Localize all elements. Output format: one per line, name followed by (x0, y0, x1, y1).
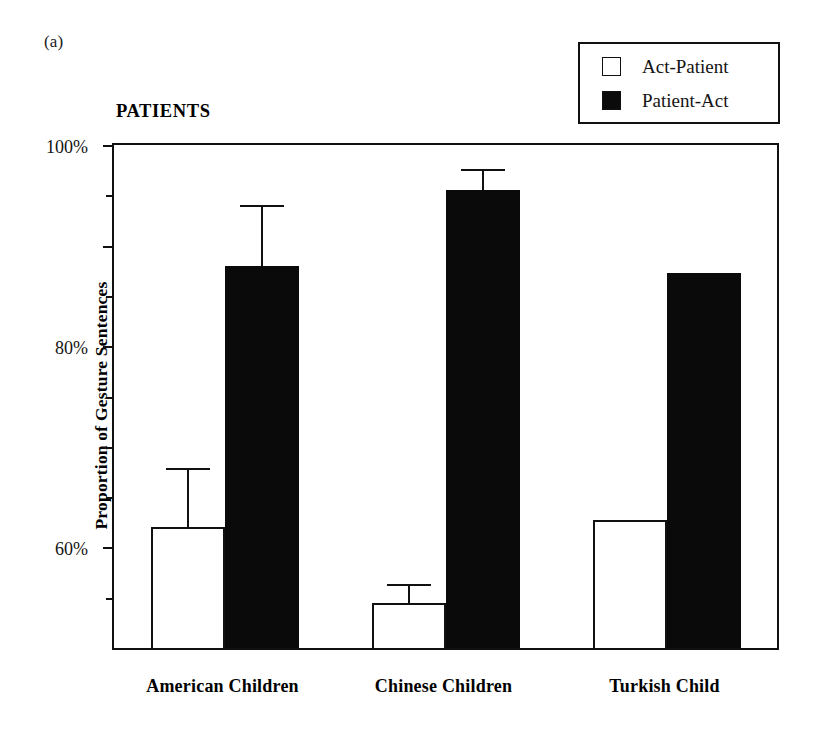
y-axis-tick-minor (106, 296, 114, 298)
bar-act-patient (151, 527, 225, 648)
y-axis-tick-major: 40% (103, 447, 114, 449)
x-axis-label: Chinese Children (334, 676, 554, 697)
legend-label-patient-act: Patient-Act (642, 91, 729, 110)
legend: Act-Patient Patient-Act (578, 42, 780, 124)
bar-patient-act (667, 273, 741, 648)
error-bar-stem (482, 169, 484, 191)
error-bar-cap (240, 205, 284, 207)
legend-item-act-patient: Act-Patient (580, 50, 778, 82)
legend-label-act-patient: Act-Patient (642, 57, 729, 76)
figure-panel: (a) PATIENTS Act-Patient Patient-Act Pro… (0, 0, 822, 739)
bar-patient-act (225, 266, 299, 648)
y-axis-tick-minor (106, 195, 114, 197)
y-axis-tick-label: 100% (46, 138, 88, 156)
y-axis-tick-label: 60% (55, 540, 88, 558)
hollow-square-icon (602, 57, 621, 76)
bar-patient-act (446, 190, 520, 648)
y-axis-tick-minor (106, 497, 114, 499)
legend-item-patient-act: Patient-Act (580, 84, 778, 116)
error-bar-stem (187, 468, 189, 527)
y-axis-tick-major: 20% (103, 547, 114, 549)
error-bar-cap (166, 468, 210, 470)
error-bar-stem (261, 205, 263, 265)
bar-act-patient (593, 520, 667, 648)
error-bar-cap (461, 169, 505, 171)
x-axis-label: Turkish Child (555, 676, 775, 697)
y-axis-tick-major: 60% (103, 346, 114, 348)
panel-label: (a) (44, 32, 63, 52)
error-bar-stem (408, 584, 410, 603)
y-axis-tick-major: 100% (103, 145, 114, 147)
y-axis-tick-minor (106, 598, 114, 600)
plot-area: 100%80%60%40%20% (114, 145, 777, 648)
plot-frame: 100%80%60%40%20% (112, 143, 779, 650)
y-axis-tick-label: 80% (55, 339, 88, 357)
error-bar-cap (387, 584, 431, 586)
bar-act-patient (372, 603, 446, 648)
y-axis-title: Proportion of Gesture Sentences (91, 241, 112, 571)
y-axis-tick-minor (106, 397, 114, 399)
x-axis-label: American Children (113, 676, 333, 697)
chart-title: PATIENTS (116, 101, 211, 122)
filled-square-icon (602, 91, 621, 110)
y-axis-tick-major: 80% (103, 246, 114, 248)
